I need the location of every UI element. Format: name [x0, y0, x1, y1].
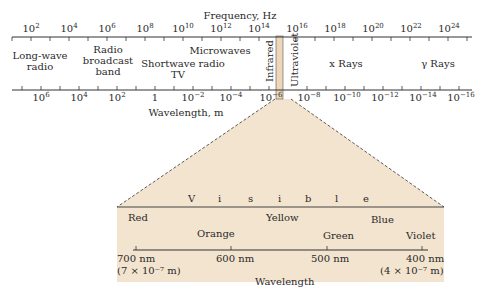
wavelength-tick-label: 1 — [152, 93, 158, 103]
frequency-tick-label: 106 — [98, 24, 115, 34]
color-violet-label: Violet — [406, 230, 435, 241]
band-gamma-label: γ Rays — [421, 58, 455, 69]
visible-letter: e — [363, 193, 369, 204]
wavelength-ticks — [22, 86, 459, 90]
nm-500-label: 500 nm — [311, 253, 349, 264]
nm-700-label: 700 nm — [117, 253, 155, 264]
wavelength-tick-label: 10−14 — [409, 93, 437, 103]
band-label-line: band — [83, 66, 133, 77]
visible-letter: b — [305, 193, 311, 204]
frequency-tick-label: 1024 — [438, 24, 460, 34]
band-label-line: radio — [13, 61, 68, 72]
band-microwaves-label: Microwaves — [189, 45, 250, 56]
visible-letter: s — [248, 193, 253, 204]
wavelength-tick-label: 10−10 — [333, 93, 361, 103]
wavelength-tick-label: 106 — [32, 93, 49, 103]
visible-wavelength-axis-title: Wavelength — [255, 276, 314, 287]
wavelength-tick-label: 104 — [70, 93, 87, 103]
frequency-tick-label: 102 — [22, 24, 39, 34]
frequency-tick-label: 108 — [136, 24, 153, 34]
frequency-tick-label: 1010 — [172, 24, 194, 34]
visible-letter: i — [278, 193, 281, 204]
wavelength-tick-label: 10−8 — [297, 93, 320, 103]
wavelength-tick-label: 10−4 — [219, 93, 242, 103]
frequency-tick-label: 1012 — [210, 24, 232, 34]
color-blue-label: Blue — [371, 214, 394, 225]
wavelength-tick-label: 10−12 — [371, 93, 399, 103]
band-shortwave-label: Shortwave radio — [141, 58, 225, 69]
frequency-tick-label: 1022 — [400, 24, 422, 34]
band-tv-label: TV — [171, 69, 185, 80]
frequency-ticks — [12, 37, 467, 41]
frequency-tick-label: 1020 — [362, 24, 384, 34]
band-infrared-label: Infrared — [264, 40, 275, 82]
nm-600-label: 600 nm — [216, 253, 254, 264]
wavelength-tick-label: 10−2 — [181, 93, 204, 103]
frequency-axis-title: Frequency, Hz — [203, 10, 276, 21]
visible-letter: V — [188, 193, 195, 204]
frequency-tick-label: 104 — [60, 24, 77, 34]
band-ultraviolet-label: Ultraviolet — [289, 33, 300, 87]
band-xrays-label: x Rays — [329, 58, 362, 69]
visible-letter: i — [218, 193, 221, 204]
nm-400-label: 400 nm — [406, 253, 444, 264]
wavelength-axis-title: Wavelength, m — [148, 107, 223, 118]
wavelength-tick-label: 10−16 — [447, 93, 475, 103]
band-label-line: Radio — [83, 44, 133, 55]
band-label-line: broadcast — [83, 55, 133, 66]
frequency-tick-label: 1014 — [248, 24, 270, 34]
nm-400-sci-label: (4 × 10⁻⁷ m) — [380, 265, 444, 276]
visible-letter: l — [335, 193, 338, 204]
wavelength-tick-label: 102 — [108, 93, 125, 103]
color-green-label: Green — [323, 230, 354, 241]
nm-700-sci-label: (7 × 10⁻⁷ m) — [117, 265, 181, 276]
color-red-label: Red — [128, 212, 148, 223]
band-long-wave-label: Long-wave radio — [13, 50, 68, 72]
frequency-tick-label: 1018 — [324, 24, 346, 34]
color-yellow-label: Yellow — [266, 212, 299, 223]
wavelength-tick-label: 10−6 — [259, 93, 282, 103]
band-label-line: Long-wave — [13, 50, 68, 61]
color-orange-label: Orange — [197, 228, 235, 239]
visible-region-fill — [117, 99, 444, 282]
band-radio-broadcast-label: Radio broadcast band — [83, 44, 133, 77]
